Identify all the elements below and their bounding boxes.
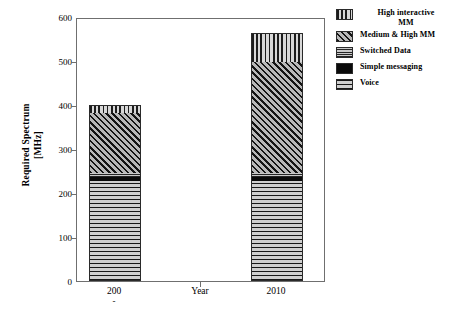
y-tick-label-400: 400 <box>48 102 72 111</box>
chart-figure: Required Spectrum [MHz] 600 500 400 300 … <box>0 0 461 310</box>
x-tick-label-2005-sub: - <box>88 297 140 305</box>
y-axis-title: Required Spectrum [MHz] <box>14 60 50 230</box>
legend-label-voice: Voice <box>360 78 379 88</box>
bar-series-2010[interactable] <box>251 33 303 281</box>
plot-area <box>76 18 325 282</box>
legend-label-switched-data: Switched Data <box>360 46 411 56</box>
legend-item-medium-high-mm[interactable]: Medium & High MM <box>336 30 460 43</box>
legend-item-high-interactive-mm[interactable]: High interactive MM <box>336 8 460 27</box>
y-tick-label-300: 300 <box>48 146 72 155</box>
legend-item-simple-messaging[interactable]: Simple messaging <box>336 62 460 75</box>
horizontal-hatch-swatch-icon <box>336 79 353 90</box>
x-tick-label-2005-main: 200 <box>107 286 121 296</box>
solid-black-swatch-icon <box>336 63 353 74</box>
y-tick-label-100: 100 <box>48 234 72 243</box>
y-tick-label-600: 600 <box>48 14 72 23</box>
x-tick-label-2010: 2010 <box>250 286 302 297</box>
x-tick-label-2005: 200 - <box>88 286 140 305</box>
y-axis-tick-labels: 600 500 400 300 200 100 0 <box>46 0 72 310</box>
chart-legend: High interactive MM Medium & High MM Swi… <box>336 8 460 94</box>
bar-segment-high-interactive-mm[interactable] <box>89 105 141 113</box>
bar-segment-voice[interactable] <box>251 181 303 281</box>
bar-segment-medium-high-mm[interactable] <box>251 62 303 173</box>
y-axis-title-line2: [MHz] <box>32 103 44 186</box>
horizontal-dense-hatch-swatch-icon <box>336 47 353 58</box>
bar-series-2005[interactable] <box>89 105 141 281</box>
legend-label-high-interactive-mm: High interactive MM <box>360 8 452 27</box>
legend-item-voice[interactable]: Voice <box>336 78 460 91</box>
x-tick-label-2010-main: 2010 <box>267 286 286 296</box>
legend-label-simple-messaging: Simple messaging <box>360 62 422 72</box>
y-tick-label-200: 200 <box>48 190 72 199</box>
bar-segment-high-interactive-mm[interactable] <box>251 33 303 62</box>
y-axis-title-line1: Required Spectrum <box>20 103 32 186</box>
y-tick-label-500: 500 <box>48 58 72 67</box>
diagonal-hatch-swatch-icon <box>336 31 353 42</box>
legend-label-medium-high-mm: Medium & High MM <box>360 30 435 40</box>
bar-segment-medium-high-mm[interactable] <box>89 113 141 174</box>
legend-item-switched-data[interactable]: Switched Data <box>336 46 460 59</box>
y-tick-label-0: 0 <box>48 278 72 287</box>
bar-segment-voice[interactable] <box>89 181 141 281</box>
vertical-hatch-swatch-icon <box>336 9 353 20</box>
x-axis-title: Year <box>174 286 226 297</box>
